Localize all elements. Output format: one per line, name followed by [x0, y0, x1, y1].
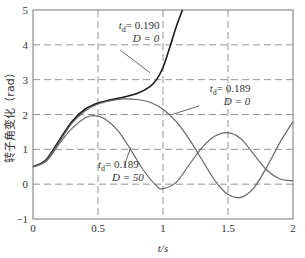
series-line-0	[33, 10, 183, 167]
y-tick-label: 5	[23, 4, 29, 16]
y-tick-label: 4	[23, 39, 29, 51]
y-tick-label: 0	[23, 178, 29, 190]
x-tick-label: 2	[290, 222, 296, 234]
x-tick-label: 0	[30, 222, 36, 234]
y-tick-label: 1	[23, 143, 29, 155]
annotation-leader	[172, 106, 199, 115]
annotation-d: D = 0	[132, 32, 160, 44]
y-axis-label: 转子角变化（rad）	[3, 67, 17, 162]
y-tick-label: 3	[23, 74, 29, 86]
annotation-leader	[120, 50, 150, 73]
annotation-d: D = 50	[111, 171, 144, 183]
x-axis-label: t/s	[158, 242, 168, 254]
y-tick-label: −1	[16, 213, 28, 225]
x-tick-label: 1	[160, 222, 166, 234]
x-tick-label: 1.5	[221, 222, 235, 234]
annotation-d: D = 0	[223, 95, 251, 107]
y-tick-label: 2	[23, 109, 29, 121]
rotor-angle-chart: 00.511.52−1012345 td= 0.190D = 0td= 0.18…	[0, 0, 305, 258]
x-tick-label: 0.5	[91, 222, 105, 234]
